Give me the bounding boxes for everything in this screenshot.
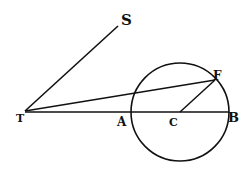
- label-t: T: [16, 112, 25, 125]
- label-b: B: [228, 110, 239, 125]
- label-f: F: [213, 69, 222, 83]
- diagram-canvas: T S A C B F: [0, 0, 250, 173]
- geometry-diagram: T S A C B F: [0, 0, 250, 173]
- label-c: C: [169, 116, 178, 129]
- label-a: A: [116, 115, 127, 129]
- label-s: S: [121, 11, 132, 29]
